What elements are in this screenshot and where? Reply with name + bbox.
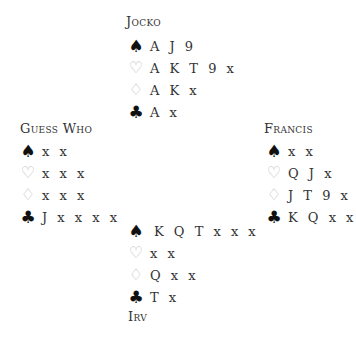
- cards-diamonds: x x x: [42, 186, 87, 206]
- spade-icon: ♠: [128, 36, 144, 56]
- club-icon: ♣: [128, 102, 144, 122]
- heart-icon: ♡: [128, 243, 144, 263]
- spade-icon: ♠: [20, 141, 36, 161]
- diamond-icon: ♢: [128, 80, 144, 100]
- cards-clubs: K Q x x: [288, 208, 356, 228]
- cards-clubs: A x: [150, 103, 180, 123]
- cards-diamonds: A K x: [150, 81, 200, 101]
- diamond-icon: ♢: [20, 185, 36, 205]
- cards-hearts: x x: [150, 244, 178, 264]
- cards-diamonds: J T 9 x: [288, 186, 351, 206]
- heart-icon: ♡: [20, 163, 36, 183]
- club-icon: ♣: [128, 287, 144, 307]
- club-icon: ♣: [20, 207, 36, 227]
- cards-spades: K Q T x x x: [154, 222, 259, 242]
- cards-diamonds: Q x x: [150, 266, 199, 286]
- heart-icon: ♡: [128, 58, 144, 78]
- cards-spades: A J 9: [150, 37, 196, 57]
- player-name-south: Irv: [128, 309, 147, 324]
- cards-spades: x x: [288, 142, 316, 162]
- cards-hearts: x x x: [42, 164, 87, 184]
- cards-spades: x x: [42, 142, 70, 162]
- cards-hearts: Q J x: [288, 164, 334, 184]
- player-name-west: Guess Who: [20, 121, 92, 136]
- player-name-east: Francis: [264, 121, 313, 136]
- diamond-icon: ♢: [128, 265, 144, 285]
- cards-hearts: A K T 9 x: [150, 59, 237, 79]
- diamond-icon: ♢: [266, 185, 282, 205]
- cards-clubs: J x x x x: [42, 208, 120, 228]
- cards-clubs: T x: [150, 288, 179, 308]
- heart-icon: ♡: [266, 163, 282, 183]
- club-icon: ♣: [266, 207, 282, 227]
- spade-icon: ♠: [266, 141, 282, 161]
- player-name-north: Jocko: [126, 14, 161, 29]
- spade-icon: ♠: [128, 221, 144, 241]
